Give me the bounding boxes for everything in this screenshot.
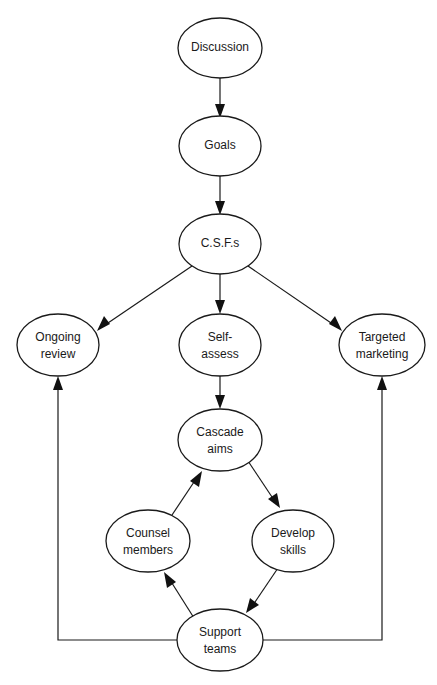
edge-goals-to-csfs [215,176,225,215]
node-develop-skills[interactable]: Develop skills [252,510,334,572]
node-discussion[interactable]: Discussion [178,18,262,78]
node-shape-cascade-aims[interactable] [178,409,262,471]
node-ongoing-review[interactable]: Ongoing review [17,314,99,376]
node-label-self-assess-line2: assess [201,347,238,361]
arrowhead-icon [97,316,110,331]
edge-csfs-to-self-assess [215,274,225,314]
arrowhead-icon [268,493,280,508]
node-label-targeted-marketing-line1: Targeted [359,330,406,344]
node-label-counsel-members-line2: members [123,543,173,557]
node-support-teams[interactable]: Support teams [177,609,263,671]
node-shape-targeted-marketing[interactable] [339,314,425,376]
arrowhead-icon [246,598,259,613]
node-label-discussion: Discussion [191,40,249,54]
node-label-self-assess-line1: Self- [208,330,233,344]
edge-discussion-to-goals [215,78,225,118]
node-label-goals: Goals [204,138,235,152]
node-label-support-teams-line2: teams [204,642,237,656]
node-self-assess[interactable]: Self- assess [179,314,261,376]
node-goals[interactable]: Goals [179,116,261,176]
node-label-cascade-aims-line1: Cascade [196,425,244,439]
node-shape-ongoing-review[interactable] [17,314,99,376]
edge-cascade-aims-to-develop-skills [248,461,280,508]
arrowhead-icon [215,300,225,314]
node-label-targeted-marketing-line2: marketing [356,347,409,361]
node-shape-develop-skills[interactable] [252,510,334,572]
node-label-develop-skills-line2: skills [280,543,306,557]
node-cascade-aims[interactable]: Cascade aims [178,409,262,471]
node-shape-self-assess[interactable] [179,314,261,376]
arrowhead-icon [377,376,387,390]
node-label-ongoing-review-line1: Ongoing [35,330,80,344]
edge-counsel-members-to-cascade-aims [170,471,202,518]
edge-csfs-to-targeted-marketing [248,266,342,331]
edge-support-teams-to-ongoing-review [53,376,177,640]
edge-develop-skills-to-support-teams [246,568,278,613]
node-layer: Discussion Goals C.S.F.s Ongoing review … [17,18,425,671]
arrowhead-icon [215,201,225,215]
arrowhead-icon [215,395,225,409]
node-targeted-marketing[interactable]: Targeted marketing [339,314,425,376]
edge-csfs-to-ongoing-review [97,266,192,331]
edge-self-assess-to-cascade-aims [215,376,225,409]
node-label-develop-skills-line1: Develop [271,526,315,540]
edge-support-teams-to-targeted-marketing [263,376,387,640]
node-label-counsel-members-line1: Counsel [126,526,170,540]
node-shape-counsel-members[interactable] [106,510,190,572]
node-counsel-members[interactable]: Counsel members [106,510,190,572]
node-csfs[interactable]: C.S.F.s [179,214,261,274]
node-label-cascade-aims-line2: aims [207,442,232,456]
arrowhead-icon [53,376,63,390]
flowchart-canvas: Discussion Goals C.S.F.s Ongoing review … [0,0,437,685]
node-label-support-teams-line1: Support [199,625,242,639]
node-label-ongoing-review-line2: review [41,347,76,361]
arrowhead-icon [329,316,342,331]
edge-support-teams-to-counsel-members [164,572,194,618]
node-shape-support-teams[interactable] [177,609,263,671]
node-label-csfs: C.S.F.s [201,236,240,250]
flowchart-svg: Discussion Goals C.S.F.s Ongoing review … [0,0,437,685]
